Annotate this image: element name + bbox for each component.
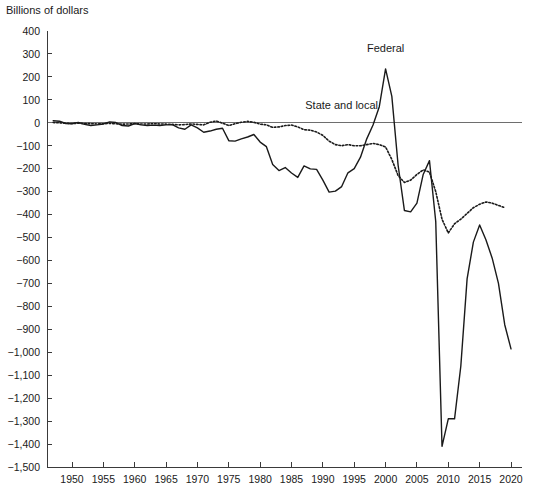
series-line-state-and-local [53, 121, 505, 233]
y-tick-label: −400 [16, 208, 40, 220]
y-tick-label: −1,000 [8, 346, 41, 358]
y-tick-label: 300 [22, 48, 40, 60]
x-tick-label: 1980 [248, 473, 272, 485]
x-tick-label: 1990 [311, 473, 335, 485]
y-tick-label: −100 [16, 140, 40, 152]
y-tick-label: 400 [22, 25, 40, 37]
chart-container: Billions of dollars 4003002001000−100−20… [0, 0, 538, 498]
y-tick-label: −700 [16, 277, 40, 289]
x-tick-label: 1965 [154, 473, 178, 485]
y-tick-label: −300 [16, 185, 40, 197]
y-tick-label: −1,400 [8, 438, 41, 450]
y-tick-label: −500 [16, 231, 40, 243]
x-tick-label: 2020 [499, 473, 523, 485]
x-tick-label: 2005 [405, 473, 429, 485]
x-tick-label: 1955 [92, 473, 116, 485]
x-tick-label: 1970 [186, 473, 210, 485]
y-tick-label: −600 [16, 254, 40, 266]
y-tick-label: 100 [22, 94, 40, 106]
y-tick-label: −1,300 [8, 415, 41, 427]
y-tick-label: −1,500 [8, 461, 41, 473]
x-tick-label: 1950 [60, 473, 84, 485]
x-tick-label: 1995 [343, 473, 367, 485]
y-tick-label: −900 [16, 323, 40, 335]
x-tick-label: 1985 [280, 473, 304, 485]
y-tick-label: 200 [22, 71, 40, 83]
y-axis-ticks: 4003002001000−100−200−300−400−500−600−70… [8, 25, 52, 473]
series-annotations: FederalState and local [305, 42, 404, 111]
y-axis-title: Billions of dollars [6, 4, 89, 16]
y-tick-label: −200 [16, 162, 40, 174]
x-tick-label: 2000 [374, 473, 398, 485]
deficit-line-chart: Billions of dollars 4003002001000−100−20… [0, 0, 538, 498]
y-tick-label: −800 [16, 300, 40, 312]
y-tick-label: −1,100 [8, 369, 41, 381]
x-tick-label: 2015 [468, 473, 492, 485]
x-axis-ticks: 1950195519601965197019751980198519901995… [60, 462, 523, 485]
annotation-state-and-local: State and local [305, 99, 378, 111]
x-tick-label: 1975 [217, 473, 241, 485]
series-paths [53, 69, 511, 446]
x-tick-label: 2010 [437, 473, 461, 485]
y-tick-label: 0 [34, 117, 40, 129]
annotation-federal: Federal [367, 42, 404, 54]
y-tick-label: −1,200 [8, 392, 41, 404]
x-tick-label: 1960 [123, 473, 147, 485]
